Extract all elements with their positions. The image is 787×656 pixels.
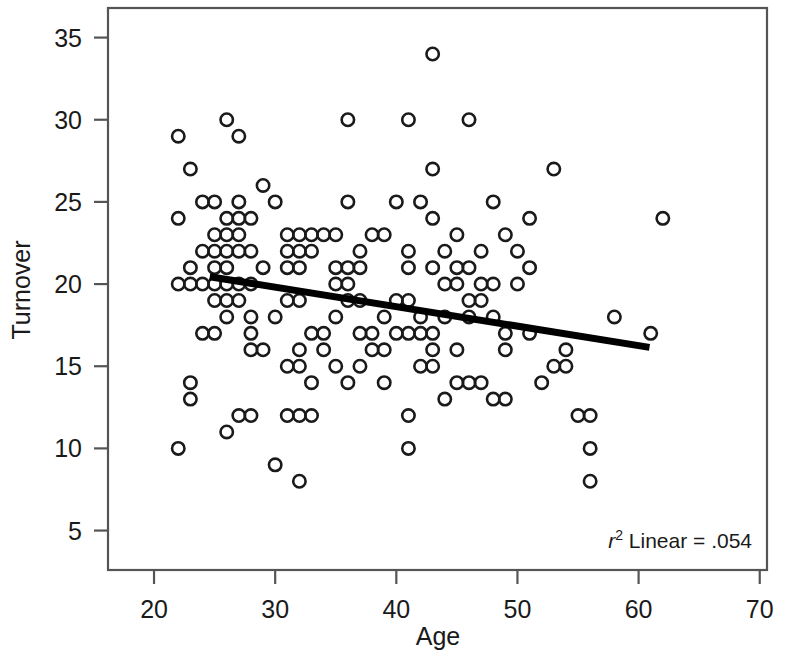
y-tick-label: 10 xyxy=(54,434,82,462)
data-point xyxy=(499,229,511,241)
data-point xyxy=(293,409,305,421)
data-point xyxy=(572,409,584,421)
data-point xyxy=(378,344,390,356)
data-point xyxy=(208,327,220,339)
data-point xyxy=(342,196,354,208)
data-point xyxy=(487,196,499,208)
data-point xyxy=(354,360,366,372)
y-tick-label: 35 xyxy=(54,24,82,52)
data-point xyxy=(257,261,269,273)
x-tick-label: 70 xyxy=(746,595,774,623)
data-point xyxy=(414,360,426,372)
data-point xyxy=(305,229,317,241)
chart-canvas: 203040506070 5101520253035 Age Turnover … xyxy=(0,0,787,656)
data-point xyxy=(233,245,245,257)
data-point xyxy=(172,278,184,290)
data-point xyxy=(245,212,257,224)
data-point xyxy=(208,196,220,208)
data-point xyxy=(402,327,414,339)
data-point xyxy=(414,327,426,339)
y-tick-label: 30 xyxy=(54,106,82,134)
data-point xyxy=(184,376,196,388)
data-point xyxy=(608,311,620,323)
data-point xyxy=(548,360,560,372)
data-point xyxy=(221,311,233,323)
data-point xyxy=(281,245,293,257)
data-point xyxy=(366,344,378,356)
y-tick-label: 25 xyxy=(54,188,82,216)
data-point xyxy=(426,163,438,175)
data-point xyxy=(184,163,196,175)
data-point xyxy=(317,327,329,339)
data-point xyxy=(402,114,414,126)
data-point xyxy=(402,442,414,454)
data-point xyxy=(293,245,305,257)
data-point xyxy=(221,426,233,438)
data-point xyxy=(233,229,245,241)
y-tick-label: 5 xyxy=(68,517,82,545)
data-point xyxy=(281,229,293,241)
data-point xyxy=(499,393,511,405)
data-point xyxy=(657,212,669,224)
data-point xyxy=(305,245,317,257)
data-point xyxy=(390,327,402,339)
data-point xyxy=(208,261,220,273)
data-point xyxy=(439,278,451,290)
data-point xyxy=(172,212,184,224)
data-point xyxy=(414,196,426,208)
data-point xyxy=(499,344,511,356)
data-point xyxy=(221,212,233,224)
data-point xyxy=(317,344,329,356)
data-point xyxy=(245,311,257,323)
data-point xyxy=(439,393,451,405)
data-point xyxy=(305,327,317,339)
x-axis-title: Age xyxy=(416,622,460,650)
r-exponent: 2 xyxy=(615,527,623,543)
data-point xyxy=(475,376,487,388)
data-point xyxy=(293,261,305,273)
data-point xyxy=(196,327,208,339)
data-point xyxy=(487,278,499,290)
data-point xyxy=(439,245,451,257)
data-point xyxy=(196,245,208,257)
scatter-plot-figure: 203040506070 5101520253035 Age Turnover … xyxy=(0,0,787,656)
x-tick-label: 60 xyxy=(625,595,653,623)
data-point xyxy=(293,294,305,306)
y-axis-ticks xyxy=(94,38,108,531)
data-point xyxy=(196,278,208,290)
data-point xyxy=(402,409,414,421)
data-point xyxy=(366,229,378,241)
data-point xyxy=(366,327,378,339)
data-point xyxy=(451,229,463,241)
data-point xyxy=(426,360,438,372)
data-point xyxy=(330,278,342,290)
data-point xyxy=(293,344,305,356)
data-point xyxy=(330,311,342,323)
data-point xyxy=(330,261,342,273)
y-tick-label: 15 xyxy=(54,352,82,380)
data-point xyxy=(451,344,463,356)
data-point xyxy=(233,212,245,224)
data-point xyxy=(269,196,281,208)
data-point xyxy=(390,196,402,208)
data-point xyxy=(221,261,233,273)
data-point xyxy=(475,278,487,290)
data-point xyxy=(172,442,184,454)
data-point xyxy=(523,212,535,224)
data-point xyxy=(426,327,438,339)
data-point xyxy=(426,212,438,224)
data-point xyxy=(221,294,233,306)
data-point xyxy=(330,360,342,372)
data-point xyxy=(402,245,414,257)
data-point xyxy=(645,327,657,339)
r-squared-text: Linear = .054 xyxy=(623,529,752,552)
data-point xyxy=(342,114,354,126)
data-point xyxy=(451,261,463,273)
y-axis-tick-labels: 5101520253035 xyxy=(54,24,82,545)
x-tick-label: 40 xyxy=(382,595,410,623)
data-point xyxy=(208,294,220,306)
x-axis-ticks xyxy=(154,570,760,584)
data-point xyxy=(426,48,438,60)
y-axis-title: Turnover xyxy=(7,240,35,339)
data-point xyxy=(233,130,245,142)
